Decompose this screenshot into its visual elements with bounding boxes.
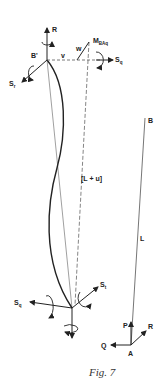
sq-bottom-label: Sq [14, 299, 22, 308]
b-label: B [148, 117, 153, 124]
sq-bottom-moment-icon [46, 296, 53, 318]
st-label: St [100, 281, 107, 290]
chord-line [47, 60, 72, 308]
structural-diagram: R B' Sr v w Sq MBAq [L + u] Sq St [0, 0, 167, 391]
q-label: Q [101, 342, 107, 350]
sq-bottom-force-arrow [30, 302, 72, 308]
v-label: v [61, 52, 65, 59]
dashed-length-line [75, 42, 89, 305]
reference-line [131, 118, 145, 345]
l-label: L [140, 235, 145, 242]
deformed-element: R B' Sr v w Sq MBAq [L + u] Sq St [9, 26, 123, 338]
sr-force-arrow [22, 60, 47, 82]
b-prime-label: B' [31, 52, 38, 59]
w-label: w [75, 45, 82, 52]
length-label: [L + u] [81, 175, 102, 183]
bottom-moment-icon [64, 325, 78, 333]
figure-caption: Fig. 7 [88, 366, 116, 378]
r-ref-force-arrow [131, 331, 146, 345]
reference-element: B L P R Q A [101, 117, 153, 357]
a-label: A [128, 350, 133, 357]
p-label: P [123, 322, 128, 329]
sr-label: Sr [9, 80, 16, 89]
r-label: R [52, 26, 57, 33]
m-baq-label: MBAq [93, 37, 108, 46]
sr-moment-icon [28, 66, 34, 80]
sq-top-label: Sq [115, 56, 123, 65]
r-ref-label: R [148, 323, 153, 330]
